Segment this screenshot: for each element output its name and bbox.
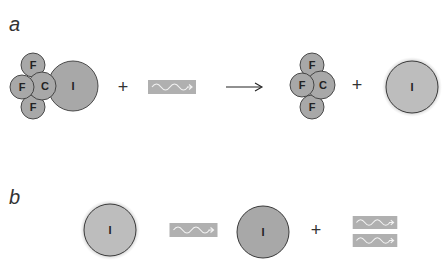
cf3i-molecule: F F F C I	[10, 53, 98, 119]
photon-icon	[170, 223, 218, 237]
fluorine-label: F	[30, 101, 37, 113]
iodine-label: I	[108, 224, 111, 236]
iodine-label: I	[410, 81, 413, 93]
fluorine-label: F	[299, 79, 306, 91]
iodine-label: I	[71, 80, 74, 92]
fluorine-label: F	[19, 81, 26, 93]
fluorine-label: F	[309, 59, 316, 71]
iodine-label: I	[261, 226, 264, 238]
diagram-stage: a b F F F C I +	[0, 0, 445, 273]
photon-icon	[353, 216, 398, 229]
carbon-label: C	[319, 79, 327, 91]
excited-iodine-atom: I	[382, 57, 442, 117]
plus-sign: +	[352, 75, 363, 95]
reaction-arrow-icon	[226, 83, 262, 91]
plus-sign: +	[311, 220, 322, 240]
plus-sign: +	[118, 77, 129, 97]
fluorine-label: F	[309, 101, 316, 113]
photon-icon	[353, 234, 398, 247]
carbon-label: C	[41, 80, 49, 92]
cf3-radical: F F F C	[290, 53, 335, 119]
ground-state-iodine-atom: I	[237, 206, 289, 258]
photon-icon	[148, 80, 196, 94]
fluorine-label: F	[30, 59, 37, 71]
excited-iodine-atom: I	[80, 200, 140, 260]
